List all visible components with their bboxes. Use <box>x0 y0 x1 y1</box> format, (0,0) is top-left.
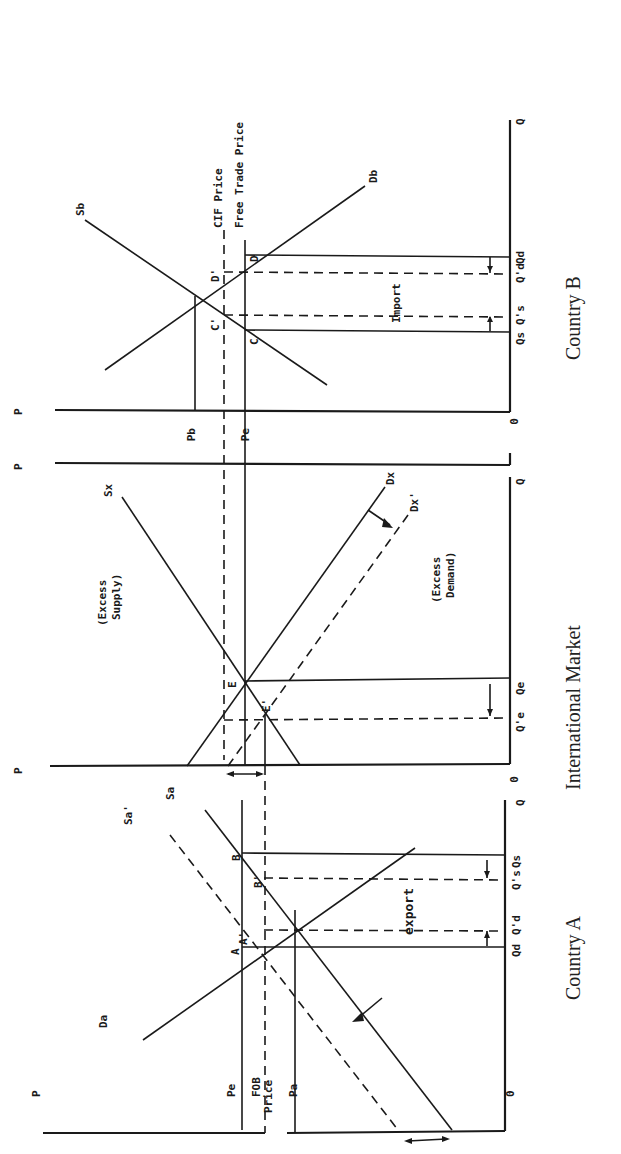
qs-label: Qs <box>510 855 523 868</box>
country-b-p-axis <box>55 410 510 412</box>
point-a-prime-label: A' <box>237 932 250 945</box>
arrow-head <box>484 931 490 938</box>
arrow-head <box>484 871 490 878</box>
free-trade-price-label: Free Trade Price <box>233 122 246 228</box>
country-a-title: Country A <box>562 916 585 1000</box>
country-a-p-label: P <box>30 1090 43 1097</box>
intl-q-label: Q <box>514 478 527 485</box>
qe-prime-label: Q'e <box>514 712 527 732</box>
panel-international-market: P P 0 Q Sx Dx Dx' (Excess Supply) (Exces… <box>12 453 584 1133</box>
qs-line <box>242 853 505 855</box>
point-e-prime-label: E' <box>260 699 273 712</box>
arrow-head <box>487 709 493 716</box>
arrow-head <box>404 1138 412 1144</box>
country-a-p-axis-2 <box>287 1131 505 1133</box>
qd-prime-label: Q'd <box>514 263 527 283</box>
country-b-q-label: Q <box>514 118 527 125</box>
qs-line <box>245 330 510 332</box>
point-b-prime-label: B' <box>252 875 265 888</box>
country-b-title: Country B <box>562 276 585 360</box>
country-a-demand-curve <box>143 848 415 1040</box>
country-a-q-label: Q <box>514 799 527 806</box>
qd-label: Qd <box>514 251 527 264</box>
qs-prime-line <box>264 878 505 880</box>
sx-label: Sx <box>102 483 115 497</box>
qs-label: Qs <box>514 332 527 345</box>
panel-country-a: P Pe FOB Price Pa 0 Q Sa Sa' Da B B' A' … <box>30 787 585 1144</box>
intl-p-label-2: P <box>12 767 25 774</box>
qd-prime-line <box>224 272 510 274</box>
intl-p-label: P <box>12 463 25 470</box>
intl-p-axis-bottom <box>50 764 510 766</box>
db-label: Db <box>367 169 380 183</box>
trade-diagram: P Pb Pe 0 Q CIF Price Free Trade Price S… <box>0 0 621 1154</box>
qd-prime-line <box>264 930 505 931</box>
country-b-supply-curve <box>85 220 327 385</box>
arrow-head <box>487 266 493 272</box>
country-a-pe-label: Pe <box>225 1083 238 1097</box>
intl-p-axis <box>55 463 510 465</box>
arrow-head <box>442 1136 450 1142</box>
sb-label: Sb <box>74 202 87 216</box>
excess-demand-label-1: (Excess <box>430 557 443 603</box>
point-c-prime-label: C' <box>209 318 222 331</box>
fob-label-2: Price <box>262 1080 275 1113</box>
country-b-pe-label: Pe <box>239 428 252 442</box>
pb-label: Pb <box>185 428 198 442</box>
excess-supply-label-2: Supply) <box>110 574 123 620</box>
dx-prime-label: Dx' <box>408 492 421 512</box>
excess-supply-label-1: (Excess <box>96 580 109 626</box>
sa-label: Sa <box>164 787 177 800</box>
intl-origin-label: 0 <box>508 776 521 783</box>
price-adjust-arrow <box>408 1139 446 1141</box>
qe-prime-line <box>224 718 510 720</box>
arrow-head <box>256 771 264 777</box>
point-e-label: E <box>226 681 239 688</box>
international-market-title: International Market <box>562 625 584 790</box>
shifted-excess-demand-curve <box>228 515 408 766</box>
shifted-supply-curve <box>170 835 398 1130</box>
country-b-origin-label: 0 <box>508 418 521 425</box>
point-d-label: D <box>248 255 261 262</box>
qe-line <box>245 678 510 681</box>
qe-label: Qe <box>514 681 527 695</box>
point-c-label: C <box>248 338 261 345</box>
da-label: Da <box>97 1015 110 1028</box>
arrow-head <box>226 771 234 777</box>
qs-prime-label: Q's <box>510 870 523 890</box>
qd-label: Qd <box>510 944 523 957</box>
point-a-label: A <box>229 948 242 955</box>
dx-label: Dx <box>384 471 397 485</box>
import-label: Import <box>390 283 403 323</box>
qs-prime-label: Q's <box>514 305 527 325</box>
excess-supply-curve <box>122 497 300 765</box>
qd-line <box>245 255 510 257</box>
qd-prime-label: Q'd <box>510 915 523 935</box>
excess-demand-label-2: Demand) <box>444 552 457 598</box>
pa-label: Pa <box>287 1084 300 1097</box>
sa-prime-label: Sa' <box>122 805 135 825</box>
point-b-label: B <box>230 854 243 861</box>
point-d-prime-label: D' <box>209 269 222 282</box>
excess-demand-curve <box>187 487 385 766</box>
export-label: export <box>401 888 416 935</box>
arrow-head <box>382 518 393 528</box>
qs-prime-line <box>224 315 510 317</box>
country-b-p-label: P <box>12 408 25 415</box>
arrow-head <box>352 1012 364 1022</box>
cif-price-label: CIF Price <box>212 168 225 228</box>
country-a-origin-label: 0 <box>504 1090 517 1097</box>
